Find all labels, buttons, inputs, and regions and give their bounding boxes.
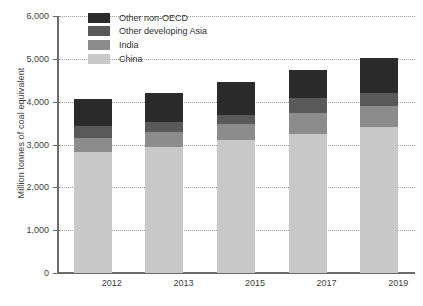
legend-item[interactable]: Other non-OECD	[88, 11, 207, 25]
bar-segment[interactable]	[360, 127, 398, 273]
bar-stack[interactable]	[74, 99, 112, 273]
bar-segment[interactable]	[217, 82, 255, 115]
y-tick-label: 5,000	[26, 54, 49, 64]
legend-swatch-icon	[88, 54, 110, 64]
bar-segment[interactable]	[145, 93, 183, 123]
bar-segment[interactable]	[145, 147, 183, 273]
y-tick-label: 1,000	[26, 225, 49, 235]
y-tick-label: 3,000	[26, 140, 49, 150]
y-tick-label: 6,000	[26, 11, 49, 21]
bar-stack[interactable]	[145, 93, 183, 273]
legend-label: China	[119, 54, 143, 64]
legend-item[interactable]: Other developing Asia	[88, 25, 207, 39]
bar-segment[interactable]	[289, 98, 327, 113]
legend-label: Other non-OECD	[119, 13, 188, 23]
bar-segment[interactable]	[145, 122, 183, 131]
y-tick-label: 4,000	[26, 97, 49, 107]
bar-segment[interactable]	[74, 126, 112, 138]
bar-segment[interactable]	[289, 134, 327, 273]
bar-segment[interactable]	[360, 106, 398, 128]
bar-segment[interactable]	[145, 132, 183, 147]
bar-stack[interactable]	[360, 58, 398, 273]
bar-stack[interactable]	[289, 70, 327, 273]
bar-segment[interactable]	[217, 115, 255, 123]
y-axis-title: Million tonnes of coal equivalent	[16, 18, 26, 248]
y-tick-mark	[53, 273, 58, 274]
legend-label: India	[119, 40, 139, 50]
bar-stack[interactable]	[217, 82, 255, 273]
x-tick-label: 2019	[353, 278, 423, 288]
legend-item[interactable]: China	[88, 52, 207, 66]
legend-item[interactable]: India	[88, 38, 207, 52]
legend-label: Other developing Asia	[119, 26, 207, 36]
bar-segment[interactable]	[360, 93, 398, 105]
chart-legend: Other non-OECDOther developing AsiaIndia…	[88, 11, 207, 65]
bar-segment[interactable]	[289, 70, 327, 98]
bar-segment[interactable]	[289, 113, 327, 134]
bar-segment[interactable]	[74, 99, 112, 126]
stacked-bar-chart: Million tonnes of coal equivalent 01,000…	[0, 0, 423, 306]
legend-swatch-icon	[88, 13, 110, 23]
bar-segment[interactable]	[74, 152, 112, 273]
bar-segment[interactable]	[217, 140, 255, 273]
y-tick-label: 2,000	[26, 182, 49, 192]
legend-swatch-icon	[88, 26, 110, 36]
bar-segment[interactable]	[360, 58, 398, 93]
legend-swatch-icon	[88, 40, 110, 50]
bar-segment[interactable]	[217, 124, 255, 141]
bar-segment[interactable]	[74, 138, 112, 152]
y-tick-label: 0	[44, 268, 49, 278]
